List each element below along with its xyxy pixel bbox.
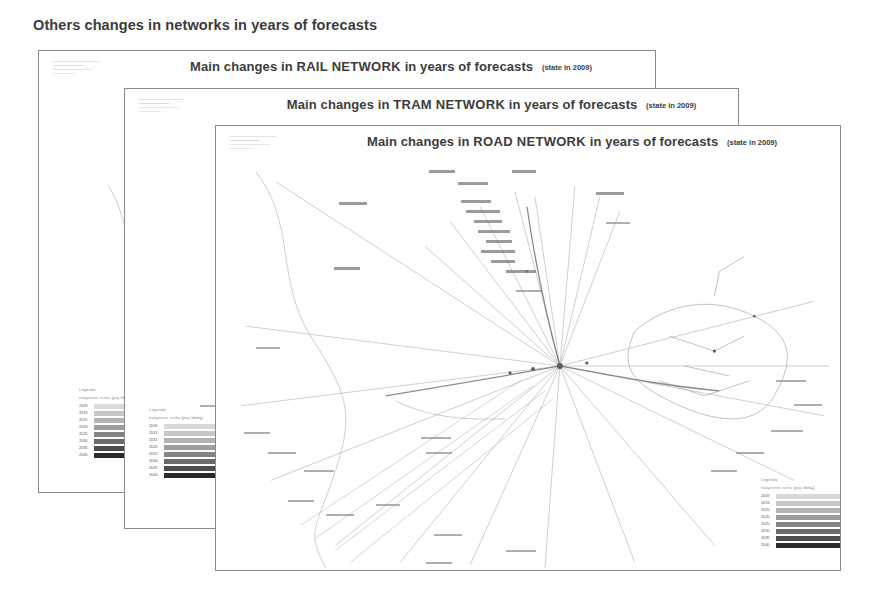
- legend-year-label: 2013: [149, 430, 164, 436]
- panel-rail-title-suffix: in years of forecasts: [405, 59, 534, 74]
- legend-year-label: 2040: [149, 472, 164, 478]
- map-place-label: [711, 470, 737, 472]
- legend-color-swatch: [776, 494, 841, 499]
- legend-color-swatch: [776, 501, 841, 506]
- legend-year-label: 2015: [149, 437, 164, 443]
- page-title: Others changes in networks in years of f…: [33, 17, 377, 33]
- legend-caption-1: Legenda: [761, 477, 841, 482]
- panel-tram-title: Main changes in TRAM NETWORK in years of…: [125, 97, 739, 112]
- legend-row: 2020: [761, 514, 841, 520]
- map-place-label: [326, 514, 354, 516]
- legend-year-label: 2025: [79, 431, 94, 437]
- map-place-label: [506, 270, 536, 273]
- map-place-label: [461, 200, 491, 203]
- legend-row: 2015: [761, 507, 841, 513]
- legend-year-label: 2009: [761, 493, 776, 499]
- legend-color-swatch: [776, 515, 841, 520]
- legend-year-label: 2013: [79, 410, 94, 416]
- map-place-label: [426, 452, 452, 454]
- panel-road-title-prefix: Main changes in: [367, 134, 470, 149]
- map-place-label: [606, 222, 630, 224]
- panel-road-title-suffix: in years of forecasts: [590, 134, 719, 149]
- legend-row: 2009: [761, 493, 841, 499]
- legend-year-label: 2009: [79, 403, 94, 409]
- map-place-label: [486, 240, 512, 243]
- map-place-label: [458, 182, 488, 185]
- legend-color-swatch: [776, 543, 841, 548]
- map-place-label: [434, 534, 462, 536]
- legend-row: 2013: [761, 500, 841, 506]
- presentation-slide: Others changes in networks in years of f…: [0, 0, 872, 605]
- legend-year-label: 2025: [149, 451, 164, 457]
- map-place-label: [376, 504, 400, 506]
- legend-year-label: 2030: [79, 438, 94, 444]
- legend-year-label: 2035: [79, 445, 94, 451]
- panel-rail-state-note: (state in 2009): [542, 63, 592, 72]
- legend-rows-road: 20092013201520202025203020352040: [761, 493, 841, 548]
- map-place-label: [268, 452, 296, 454]
- legend-row: 2030: [761, 528, 841, 534]
- map-place-label: [481, 250, 515, 253]
- map-place-label: [794, 404, 822, 406]
- legend-year-label: 2025: [761, 521, 776, 527]
- panel-rail-network-name: RAIL NETWORK: [296, 59, 400, 74]
- map-place-label: [421, 437, 451, 439]
- map-place-label: [516, 290, 542, 292]
- map-place-label: [474, 220, 502, 223]
- legend-road: Legenda natężenie ruchu [poj./dobę] 2009…: [761, 477, 841, 549]
- legend-year-label: 2020: [79, 424, 94, 430]
- panel-road-network[interactable]: Main changes in ROAD NETWORK in years of…: [215, 125, 841, 571]
- map-place-label: [304, 470, 334, 472]
- legend-year-label: 2020: [149, 444, 164, 450]
- map-place-label: [466, 210, 500, 213]
- legend-year-label: 2040: [79, 452, 94, 458]
- legend-row: 2035: [761, 535, 841, 541]
- panel-road-title: Main changes in ROAD NETWORK in years of…: [216, 134, 841, 149]
- map-place-label: [506, 550, 536, 552]
- legend-row: 2040: [761, 542, 841, 548]
- panel-tram-state-note: (state in 2009): [646, 101, 696, 110]
- map-place-label: [491, 260, 515, 263]
- legend-year-label: 2035: [149, 465, 164, 471]
- map-place-label: [334, 267, 360, 270]
- legend-year-label: 2040: [761, 542, 776, 548]
- legend-year-label: 2035: [761, 535, 776, 541]
- legend-year-label: 2020: [761, 514, 776, 520]
- legend-year-label: 2009: [149, 423, 164, 429]
- map-place-label: [339, 202, 367, 205]
- map-place-label: [771, 430, 803, 432]
- panel-rail-title: Main changes in RAIL NETWORK in years of…: [39, 59, 656, 74]
- legend-row: 2025: [761, 521, 841, 527]
- map-place-label: [478, 230, 510, 233]
- map-place-label: [776, 380, 806, 382]
- legend-color-swatch: [776, 508, 841, 513]
- map-place-label: [596, 192, 624, 195]
- map-place-label: [244, 432, 270, 434]
- panel-road-network-name: ROAD NETWORK: [473, 134, 586, 149]
- road-network-map-graphic: [216, 152, 840, 570]
- legend-year-label: 2015: [79, 417, 94, 423]
- legend-year-label: 2030: [761, 528, 776, 534]
- legend-color-swatch: [776, 529, 841, 534]
- panel-tram-title-prefix: Main changes in: [287, 97, 390, 112]
- map-place-label: [736, 452, 764, 454]
- panel-road-state-note: (state in 2009): [727, 138, 777, 147]
- map-place-label: [256, 347, 280, 349]
- legend-year-label: 2013: [761, 500, 776, 506]
- panel-tram-title-suffix: in years of forecasts: [509, 97, 638, 112]
- map-place-label: [426, 562, 452, 564]
- legend-year-label: 2030: [149, 458, 164, 464]
- map-place-label: [429, 170, 455, 173]
- legend-year-label: 2015: [761, 507, 776, 513]
- panel-rail-title-prefix: Main changes in: [190, 59, 293, 74]
- legend-color-swatch: [776, 536, 841, 541]
- map-place-label: [288, 500, 314, 502]
- panel-tram-network-name: TRAM NETWORK: [393, 97, 505, 112]
- map-place-label: [512, 170, 536, 173]
- map-road-network[interactable]: Legenda natężenie ruchu [poj./dobę] 2009…: [216, 152, 840, 570]
- legend-caption-2: natężenie ruchu [poj./dobę]: [761, 485, 841, 490]
- legend-color-swatch: [776, 522, 841, 527]
